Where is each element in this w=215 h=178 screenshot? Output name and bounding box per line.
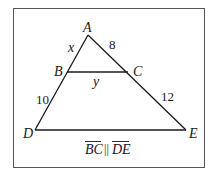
segment-label-CE: 12 bbox=[161, 89, 174, 104]
segment-label-AB: x bbox=[67, 40, 75, 55]
vertex-label-D: D bbox=[22, 126, 33, 141]
caption-segment-DE: DE bbox=[111, 142, 131, 157]
segment-label-BC: y bbox=[91, 74, 100, 89]
triangle-diagram: A B C D E x 8 y 10 12 BC || DE bbox=[0, 0, 215, 178]
frame-border bbox=[14, 9, 205, 168]
caption-segment-BC: BC bbox=[85, 142, 104, 157]
vertex-label-A: A bbox=[82, 20, 92, 35]
side-AE bbox=[88, 35, 186, 130]
segment-label-AC: 8 bbox=[109, 37, 116, 52]
vertex-label-B: B bbox=[54, 64, 63, 79]
parallel-symbol: || bbox=[104, 142, 109, 156]
vertex-label-E: E bbox=[188, 126, 198, 141]
vertex-label-C: C bbox=[133, 64, 143, 79]
segment-label-BD: 10 bbox=[36, 92, 49, 107]
side-AD bbox=[35, 35, 88, 130]
parallel-caption: BC || DE bbox=[85, 142, 131, 158]
